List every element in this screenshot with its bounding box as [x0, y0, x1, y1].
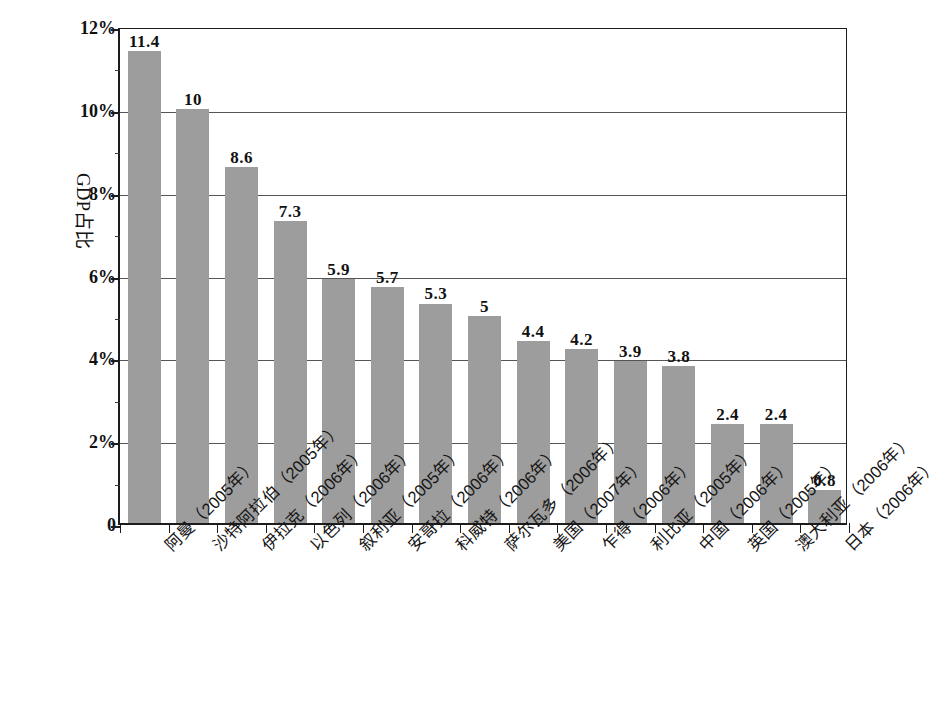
- bar-value-label: 10: [163, 91, 223, 108]
- x-axis-category-labels: 阿曼（2005年）沙特阿拉伯（2005年）伊拉克（2006年）以色列（2006年…: [0, 525, 882, 708]
- y-axis-tick: [111, 195, 120, 197]
- bar-value-label: 3.8: [649, 348, 709, 365]
- y-axis-tick-label: 12%: [58, 19, 116, 37]
- y-axis-tick: [111, 278, 120, 280]
- y-axis-minor-tick: [115, 236, 120, 237]
- bar-value-label: 7.3: [260, 203, 320, 220]
- gridline: [120, 112, 846, 113]
- y-axis-tick: [111, 443, 120, 445]
- y-axis-tick-label: 2%: [58, 433, 116, 451]
- y-axis-tick-label: 6%: [58, 268, 116, 286]
- y-axis-minor-tick: [115, 153, 120, 154]
- y-axis-tick: [111, 112, 120, 114]
- bar-value-label: 11.4: [114, 33, 174, 50]
- y-axis-tick-label: 4%: [58, 350, 116, 368]
- bar: [176, 109, 209, 523]
- y-axis-tick: [111, 360, 120, 362]
- bar-value-label: 5: [455, 298, 515, 315]
- y-axis-minor-tick: [115, 319, 120, 320]
- y-axis-minor-tick: [115, 485, 120, 486]
- bar-value-label: 5.7: [357, 269, 417, 286]
- y-axis-minor-tick: [115, 402, 120, 403]
- y-axis-tick: [111, 29, 120, 31]
- bar: [128, 51, 161, 523]
- bar-value-label: 8.6: [212, 149, 272, 166]
- y-axis-tick-label: 10%: [58, 102, 116, 120]
- y-axis-minor-tick: [115, 70, 120, 71]
- bar-value-label: 2.4: [746, 406, 806, 423]
- y-axis-tick-label: 8%: [58, 185, 116, 203]
